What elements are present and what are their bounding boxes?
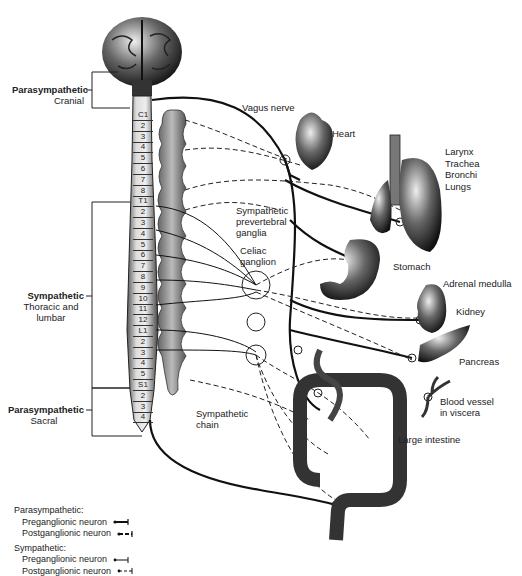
vertebra-label: 4	[133, 229, 153, 240]
label-vagus-nerve: Vagus nerve	[242, 102, 295, 113]
label-line: ganglia	[236, 227, 288, 238]
label-trachea: Trachea	[445, 158, 480, 170]
label-line: Sympathetic	[196, 408, 248, 419]
vertebra-label: 7	[133, 261, 153, 272]
vertebra-label: 9	[133, 283, 153, 294]
label-adrenal-medulla: Adrenal medulla	[443, 278, 512, 289]
vertebra-label: 2	[133, 391, 153, 402]
vertebra-label: C1	[133, 110, 153, 121]
dashed-thick-neuron-icon	[117, 530, 135, 538]
division-parasympathetic-sacral: Parasympathetic Sacral	[4, 404, 84, 426]
label-lungs: Lungs	[445, 181, 480, 193]
label-line: chain	[196, 419, 248, 430]
vertebra-label: 8	[133, 272, 153, 283]
label-respiratory: Larynx Trachea Bronchi Lungs	[445, 146, 480, 192]
label-larynx: Larynx	[445, 146, 480, 158]
vertebra-label: 3	[133, 348, 153, 359]
vertebra-label: 3	[133, 402, 153, 413]
large-intestine-illustration	[300, 350, 400, 540]
label-large-intestine: Large intestine	[398, 434, 460, 445]
vertebra-label: 5	[133, 240, 153, 251]
vertebra-label: T1	[133, 196, 153, 207]
label-pancreas: Pancreas	[459, 356, 499, 367]
legend-row: Postganglionic neuron	[14, 528, 135, 540]
label-line: prevertebral	[236, 216, 288, 227]
vertebra-label: 12	[133, 315, 153, 326]
vertebra-label: 3	[133, 132, 153, 143]
sympathetic-chain	[158, 110, 186, 395]
vertebra-label: 2	[133, 337, 153, 348]
legend-label: Preganglionic neuron	[22, 554, 107, 566]
solid-thin-neuron-icon	[113, 556, 131, 564]
kidney-illustration	[417, 284, 446, 333]
vertebra-label: 4	[133, 142, 153, 153]
label-line: Blood vessel	[440, 396, 494, 407]
vertebra-label: 4	[133, 412, 153, 423]
label-bronchi: Bronchi	[445, 169, 480, 181]
legend-label: Preganglionic neuron	[22, 517, 107, 529]
brain-illustration	[102, 17, 182, 96]
vertebra-label: 5	[133, 369, 153, 380]
heart-illustration	[296, 113, 333, 171]
label-sympathetic-chain: Sympathetic chain	[196, 408, 248, 430]
label-blood-vessel: Blood vessel in viscera	[440, 396, 494, 418]
label-prevertebral-ganglia: Sympathetic prevertebral ganglia	[236, 205, 288, 238]
label-stomach: Stomach	[393, 261, 431, 272]
legend-label: Postganglionic neuron	[22, 566, 111, 576]
label-line: ganglion	[240, 256, 276, 267]
legend: Parasympathetic: Preganglionic neuron Po…	[14, 505, 135, 576]
vertebra-label: 4	[133, 358, 153, 369]
division-sympathetic: Sympathetic Thoracic and lumbar	[18, 290, 84, 323]
label-kidney: Kidney	[456, 306, 485, 317]
label-line: in viscera	[440, 407, 494, 418]
vertebra-label: 2	[133, 121, 153, 132]
legend-row: Postganglionic neuron	[14, 566, 135, 576]
vertebra-label: 6	[133, 250, 153, 261]
vertebra-label: L1	[133, 326, 153, 337]
solid-thick-neuron-icon	[113, 518, 131, 526]
vertebra-label: 8	[133, 186, 153, 197]
vertebra-label: 7	[133, 175, 153, 186]
lungs-illustration	[370, 135, 442, 252]
label-line: Celiac	[240, 245, 276, 256]
vertebra-label: 10	[133, 294, 153, 305]
vertebra-label: 5	[133, 153, 153, 164]
legend-label: Postganglionic neuron	[22, 528, 111, 540]
legend-row: Preganglionic neuron	[14, 517, 135, 529]
legend-sympathetic-title: Sympathetic:	[14, 543, 135, 555]
label-celiac-ganglion: Celiac ganglion	[240, 245, 276, 267]
dashed-thin-neuron-icon	[117, 567, 135, 575]
division-name: Parasympathetic	[12, 84, 84, 95]
vertebra-label: 2	[133, 207, 153, 218]
vertebra-label: 11	[133, 304, 153, 315]
division-sub: Sacral	[4, 415, 84, 426]
division-parasympathetic-cranial: Parasympathetic Cranial	[12, 84, 84, 106]
division-sub: Cranial	[12, 95, 84, 106]
division-sub: Thoracic and lumbar	[18, 301, 84, 323]
division-name: Parasympathetic	[4, 404, 84, 415]
label-heart: Heart	[332, 128, 355, 139]
label-line: Sympathetic	[236, 205, 288, 216]
vertebra-label: 3	[133, 218, 153, 229]
vertebra-label: S1	[133, 380, 153, 391]
vertebra-label: 6	[133, 164, 153, 175]
legend-row: Preganglionic neuron	[14, 554, 135, 566]
division-name: Sympathetic	[18, 290, 84, 301]
legend-parasympathetic-title: Parasympathetic:	[14, 505, 135, 517]
